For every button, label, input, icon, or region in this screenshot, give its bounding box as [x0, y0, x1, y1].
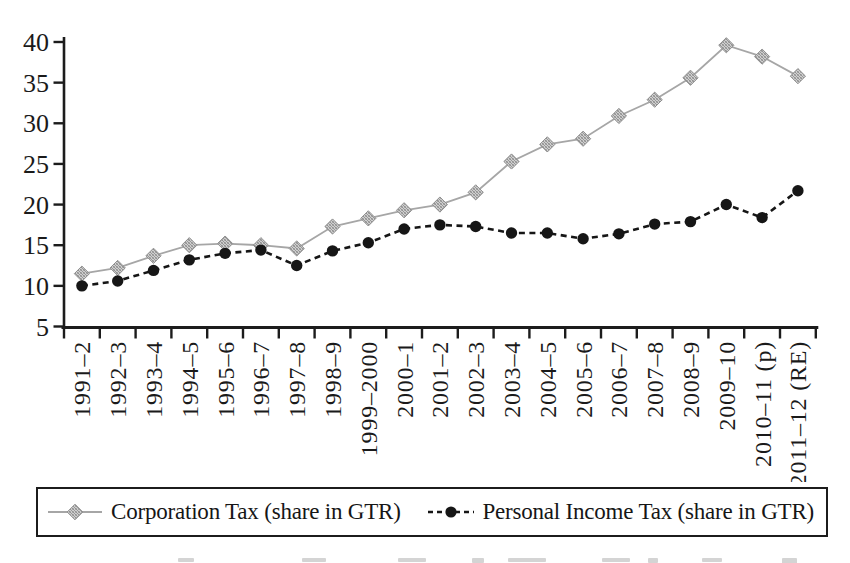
- legend-label-corporation-tax: Corporation Tax (share in GTR): [111, 499, 401, 525]
- corporation-tax-series-icon: [46, 500, 104, 524]
- corporation-tax-point: [790, 69, 805, 84]
- x-tick-label: 2006–7: [606, 341, 632, 418]
- personal-income-tax-point: [148, 265, 159, 276]
- x-tick-label: 2004–5: [535, 341, 561, 418]
- corporation-tax-point: [432, 197, 447, 212]
- x-tick-label: 1995–6: [213, 341, 239, 418]
- corporation-tax-point: [325, 219, 340, 234]
- x-tick-label: 2009–10: [714, 341, 740, 431]
- y-tick-label: 10: [23, 272, 49, 301]
- corporation-tax-point: [576, 131, 591, 146]
- personal-income-tax-point: [542, 227, 553, 238]
- corporation-tax-point: [540, 137, 555, 152]
- x-tick-label: 1996–7: [248, 341, 274, 418]
- x-tick-label: 1997–8: [284, 341, 310, 418]
- y-tick-label: 30: [23, 109, 49, 138]
- x-tick-label: 1991–2: [69, 341, 95, 418]
- personal-income-tax-series-icon: [427, 500, 475, 524]
- personal-income-tax-point: [255, 244, 266, 255]
- x-tick-label: 2005–6: [571, 341, 597, 418]
- personal-income-tax-point: [327, 245, 338, 256]
- x-tick-label: 2011–12 (RE): [785, 341, 811, 482]
- personal-income-tax-point: [291, 260, 302, 271]
- x-tick-label: 1999–2000: [356, 341, 382, 456]
- personal-income-tax-point: [184, 254, 195, 265]
- corporation-tax-point: [611, 108, 626, 123]
- personal-income-tax-point: [434, 219, 445, 230]
- x-tick-label: 2010–11 (p): [750, 341, 776, 467]
- y-tick-label: 40: [23, 28, 49, 57]
- personal-income-tax-point: [506, 227, 517, 238]
- corporation-tax-point: [361, 211, 376, 226]
- personal-income-tax-point: [792, 185, 803, 196]
- personal-income-tax-point: [613, 228, 624, 239]
- corporation-tax-point: [182, 238, 197, 253]
- personal-income-tax-point: [577, 233, 588, 244]
- personal-income-tax-point: [685, 216, 696, 227]
- legend-label-personal-income-tax: Personal Income Tax (share in GTR): [482, 499, 814, 525]
- chart-plot-area: 5101520253035401991–21992–31993–41994–51…: [0, 0, 850, 482]
- y-tick-label: 20: [23, 191, 49, 220]
- corporation-tax-point: [397, 203, 412, 218]
- y-tick-label: 15: [23, 231, 49, 260]
- y-tick-label: 25: [23, 150, 49, 179]
- personal-income-tax-point: [363, 237, 374, 248]
- corporation-tax-point: [110, 260, 125, 275]
- personal-income-tax-point: [219, 248, 230, 259]
- x-tick-label: 1994–5: [177, 341, 203, 418]
- x-tick-label: 2000–1: [392, 341, 418, 418]
- legend-item-corporation-tax: Corporation Tax (share in GTR): [46, 499, 401, 525]
- tax-share-line-chart: 5101520253035401991–21992–31993–41994–51…: [0, 0, 850, 482]
- x-tick-label: 2002–3: [463, 341, 489, 418]
- x-tick-label: 2001–2: [427, 341, 453, 418]
- x-tick-label: 1998–9: [320, 341, 346, 418]
- personal-income-tax-point: [649, 218, 660, 229]
- y-tick-label: 5: [36, 313, 49, 342]
- x-tick-label: 1992–3: [105, 341, 131, 418]
- personal-income-tax-point: [112, 275, 123, 286]
- corporation-tax-point: [755, 49, 770, 64]
- x-tick-label: 2003–4: [499, 341, 525, 418]
- x-tick-label: 2008–9: [678, 341, 704, 418]
- corporation-tax-point: [647, 92, 662, 107]
- chart-legend: Corporation Tax (share in GTR) Personal …: [36, 487, 828, 537]
- y-tick-label: 35: [23, 69, 49, 98]
- x-tick-label: 1993–4: [141, 341, 167, 418]
- figure-page: 5101520253035401991–21992–31993–41994–51…: [0, 0, 850, 563]
- personal-income-tax-point: [470, 221, 481, 232]
- corporation-tax-point: [74, 266, 89, 281]
- corporation-tax-point: [289, 241, 304, 256]
- personal-income-tax-point: [76, 280, 87, 291]
- legend-item-personal-income-tax: Personal Income Tax (share in GTR): [427, 499, 814, 525]
- personal-income-tax-point: [398, 223, 409, 234]
- x-tick-label: 2007–8: [642, 341, 668, 418]
- personal-income-tax-point: [721, 199, 732, 210]
- cropped-caption-fragment: [0, 555, 850, 563]
- personal-income-tax-point: [756, 212, 767, 223]
- corporation-tax-point: [146, 248, 161, 263]
